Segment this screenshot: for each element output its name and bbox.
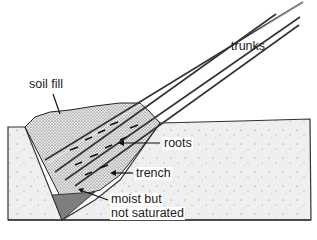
label-soil-fill: soil fill	[28, 78, 64, 91]
label-roots: roots	[163, 137, 193, 150]
label-trunks: trunks	[230, 40, 266, 53]
label-trench: trench	[135, 167, 172, 180]
label-moist-line2: not saturated	[110, 207, 185, 220]
label-moist-line1: moist but	[110, 193, 163, 206]
